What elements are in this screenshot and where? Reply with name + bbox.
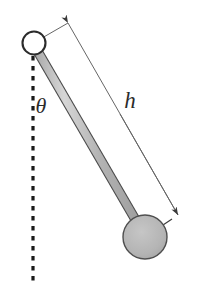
pendulum-bob [123, 215, 167, 259]
pendulum-rod-edge-left [30, 47, 138, 233]
pendulum-rod [30, 43, 146, 233]
angle-label-theta: θ [36, 93, 47, 118]
pendulum-figure: θ h [0, 0, 198, 292]
pivot-joint [23, 32, 46, 55]
pivot-connector-line [42, 23, 68, 38]
pendulum-diagram-canvas: θ h [0, 0, 198, 292]
pendulum-rod-edge-right [38, 43, 146, 229]
pendulum-rod-body [34, 45, 142, 231]
length-label-h: h [124, 88, 136, 113]
